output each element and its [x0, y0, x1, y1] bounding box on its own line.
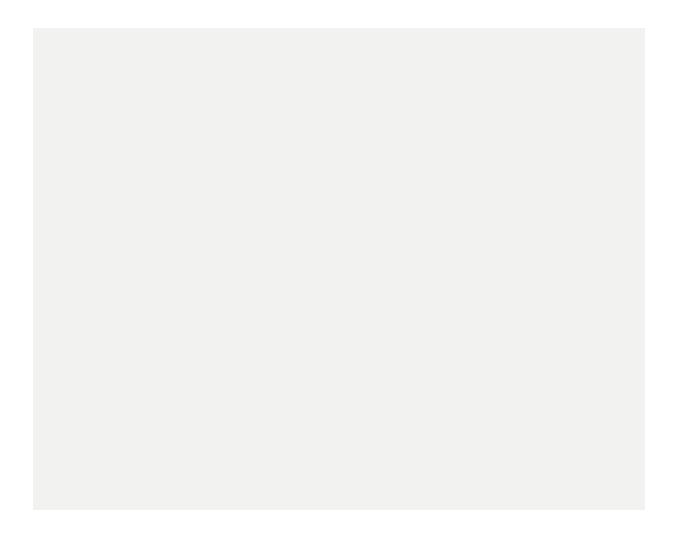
- chart-figure: 0.00.20.40.60.81.01.21.41.61.82.02.21520…: [0, 0, 685, 537]
- figure-panel: [33, 28, 645, 510]
